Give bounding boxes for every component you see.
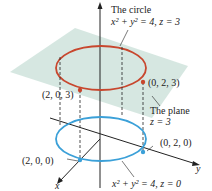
circle-title-label: The circle [111,4,151,15]
point-023 [141,80,145,84]
point-020-label: (0, 2, 0) [160,137,192,148]
point-200-label: (2, 0, 0) [22,155,54,166]
figure: The circle x² + y² = 4, z = 3 (0, 2, 3) … [0,0,212,191]
plane-label: The plane [150,105,190,116]
bottom-circle-equation: x² + y² = 4, z = 0 [112,178,181,189]
point-200 [78,158,82,162]
point-020 [141,150,145,154]
point-203 [78,88,82,92]
x-axis-label: x [55,180,59,191]
point-203-label: (2, 0, 3) [42,89,74,100]
top-circle-equation: x² + y² = 4, z = 3 [111,16,180,27]
y-axis-label: y [196,163,200,174]
point-023-label: (0, 2, 3) [148,77,180,88]
z-axis-arrow [98,2,103,9]
bottom-circle [56,117,146,161]
plane-equation: z = 3 [150,116,171,127]
